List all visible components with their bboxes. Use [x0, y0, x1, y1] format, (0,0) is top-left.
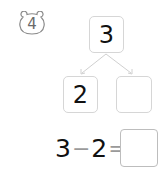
minus-sign: − — [72, 136, 90, 161]
subtraction-equation: 3 − 2 = — [55, 134, 128, 162]
right-part-answer-box[interactable] — [116, 76, 152, 113]
equation-minuend: 3 — [55, 134, 71, 163]
equation-answer-box[interactable] — [120, 129, 158, 167]
left-part-box: 2 — [63, 76, 98, 113]
equation-subtrahend: 2 — [91, 134, 107, 163]
whole-number-box: 3 — [89, 16, 124, 53]
